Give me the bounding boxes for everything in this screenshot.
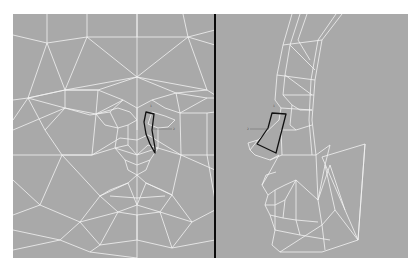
side-view-panel: 1 2	[216, 14, 408, 258]
side-label-a: 1	[273, 104, 275, 108]
front-label-a: 1	[150, 104, 152, 108]
front-view-panel: 1 2	[13, 14, 215, 258]
panel-divider	[214, 14, 216, 258]
wireframe-figure: 1 2	[0, 0, 420, 278]
side-label-b: 2	[247, 127, 249, 131]
front-label-b: 2	[173, 127, 175, 131]
